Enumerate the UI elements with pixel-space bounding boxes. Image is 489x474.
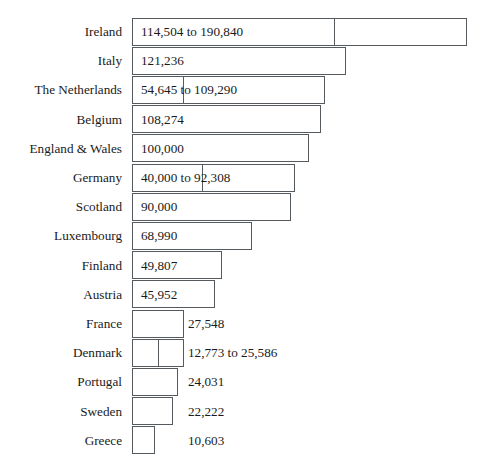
category-label: Denmark [0,338,122,367]
chart-row: Ireland114,504 to 190,840 [0,17,489,46]
bar-value-label: 45,952 [135,280,177,309]
category-label: Scotland [0,192,122,221]
category-label: Austria [0,280,122,309]
bar-value-label: 27,548 [188,309,224,338]
chart-row: The Netherlands54,645 to 109,290 [0,75,489,104]
bar-container [132,338,184,367]
category-label: The Netherlands [0,75,122,104]
category-label: France [0,309,122,338]
bar-value-label: 40,000 to 92,308 [135,163,230,192]
bar [132,368,178,396]
bar-container [132,426,155,455]
category-label: Germany [0,163,122,192]
bar-value-label: 121,236 [135,46,184,75]
category-label: Ireland [0,17,122,46]
category-label: Luxembourg [0,221,122,250]
bar-value-label: 90,000 [135,192,177,221]
bar-value-label: 22,222 [188,397,224,426]
bar-value-label: 24,031 [188,367,224,396]
bar-range-divider [334,18,335,46]
bar-value-label: 49,807 [135,251,177,280]
bar [132,426,155,454]
bar-value-label: 54,645 to 109,290 [135,75,237,104]
chart-row: Sweden22,222 [0,397,489,426]
bar-value-label: 12,773 to 25,586 [188,338,277,367]
bar [132,397,173,425]
bar-container [132,367,178,396]
bar-container [132,309,184,338]
chart-row: France27,548 [0,309,489,338]
bar [132,310,184,338]
category-label: England & Wales [0,134,122,163]
bar-value-label: 100,000 [135,134,184,163]
category-label: Italy [0,46,122,75]
chart-row: Italy121,236 [0,46,489,75]
category-label: Finland [0,251,122,280]
chart-row: Portugal24,031 [0,367,489,396]
chart-row: Scotland90,000 [0,192,489,221]
bar-range-divider [158,339,159,367]
bar-container [132,397,173,426]
bar-value-label: 68,990 [135,221,177,250]
chart-row: Greece10,603 [0,426,489,455]
bar-chart: Ireland114,504 to 190,840Italy121,236The… [0,0,489,474]
chart-row: Finland49,807 [0,251,489,280]
chart-row: Denmark12,773 to 25,586 [0,338,489,367]
category-label: Belgium [0,105,122,134]
category-label: Sweden [0,397,122,426]
bar-value-label: 114,504 to 190,840 [135,17,243,46]
chart-row: Germany40,000 to 92,308 [0,163,489,192]
bar-value-label: 10,603 [188,426,224,455]
chart-row: Belgium108,274 [0,105,489,134]
category-label: Portugal [0,367,122,396]
category-label: Greece [0,426,122,455]
bar-value-label: 108,274 [135,105,184,134]
chart-row: Austria45,952 [0,280,489,309]
chart-row: Luxembourg68,990 [0,221,489,250]
chart-row: England & Wales100,000 [0,134,489,163]
